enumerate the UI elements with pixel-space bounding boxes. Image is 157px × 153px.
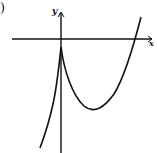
curve-right-branch xyxy=(61,17,141,110)
curve-left-branch xyxy=(40,47,61,148)
x-axis xyxy=(12,36,152,42)
y-axis xyxy=(58,12,64,153)
function-graph xyxy=(0,0,157,153)
